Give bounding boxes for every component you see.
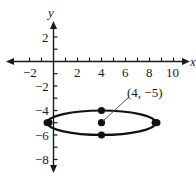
- left-vertex-point: [44, 119, 53, 126]
- y-tick-label: −6: [35, 128, 49, 143]
- x-axis-right-arrow-icon: [182, 58, 190, 65]
- x-tick-label: −2: [23, 65, 37, 80]
- x-tick-label: 10: [166, 65, 179, 80]
- x-axis: −2 2 4 6 8 10 x: [6, 54, 196, 80]
- y-axis: 2 −2 −4 −6 −8 y: [35, 5, 58, 173]
- annotation-leader-line: [103, 97, 129, 121]
- x-tick-label: 8: [146, 65, 153, 80]
- y-tick-label: −4: [35, 103, 49, 118]
- plotted-points: [44, 107, 161, 139]
- y-tick-label: 2: [42, 30, 49, 45]
- top-co-vertex-point: [98, 107, 105, 114]
- center-annotation: (4, −5): [127, 85, 163, 100]
- ellipse-graph: −2 2 4 6 8 10 x 2 −2 −4 −6 −8 y: [0, 0, 196, 185]
- y-axis-up-arrow-icon: [50, 21, 57, 29]
- y-axis-label: y: [46, 5, 54, 20]
- right-vertex-point: [152, 119, 161, 126]
- x-axis-left-arrow-icon: [6, 58, 14, 65]
- x-tick-label: 6: [122, 65, 129, 80]
- bottom-co-vertex-point: [98, 131, 105, 138]
- x-tick-label: 2: [74, 65, 81, 80]
- x-axis-label: x: [189, 54, 196, 69]
- y-axis-down-arrow-icon: [50, 165, 57, 173]
- x-tick-label: 4: [98, 65, 105, 80]
- y-tick-label: −8: [35, 152, 49, 167]
- y-tick-label: −2: [35, 79, 49, 94]
